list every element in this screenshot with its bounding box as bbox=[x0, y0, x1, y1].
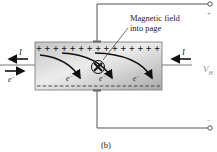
current-label-right: I bbox=[181, 47, 186, 57]
positive-terminal-label: + bbox=[207, 10, 211, 18]
electron-label-left: e− bbox=[8, 75, 15, 84]
field-label-line2: into page bbox=[130, 23, 162, 33]
figure-caption: (b) bbox=[101, 140, 111, 150]
negative-terminal-label: − bbox=[207, 117, 211, 125]
hall-effect-diagram: +++++++++++++++ e− e− e− Magnetic field … bbox=[0, 0, 217, 152]
current-label-left: I bbox=[18, 47, 23, 57]
positive-terminal bbox=[208, 2, 212, 6]
hall-voltage-label: VH bbox=[203, 64, 214, 76]
negative-terminal bbox=[208, 126, 212, 130]
field-label-line1: Magnetic field bbox=[130, 13, 181, 23]
bottom-wire bbox=[97, 90, 212, 130]
bottom-contact bbox=[93, 90, 101, 92]
